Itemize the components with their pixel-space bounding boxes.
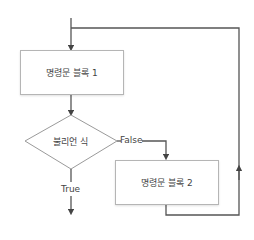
statement-block-2: 명령문 블록 2 xyxy=(115,160,219,205)
statement-block-1: 명령문 블록 1 xyxy=(20,50,124,95)
true-label: True xyxy=(61,184,80,194)
block-1-label: 명령문 블록 1 xyxy=(46,66,97,79)
false-arrow xyxy=(142,141,166,157)
condition-label: 불리언 식 xyxy=(53,135,88,148)
false-label: False xyxy=(120,135,143,145)
block-2-label: 명령문 블록 2 xyxy=(141,176,192,189)
